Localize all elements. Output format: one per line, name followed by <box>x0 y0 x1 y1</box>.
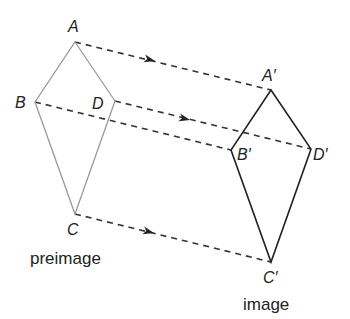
arrowhead-d-icon <box>178 113 191 123</box>
image-kite <box>231 90 311 262</box>
mapping-line-d <box>115 101 311 149</box>
vertex-label-b-prime: B′ <box>237 146 252 163</box>
vertex-label-a-prime: A′ <box>261 67 277 84</box>
mapping-line-a <box>75 42 271 90</box>
preimage-kite <box>35 42 115 214</box>
mapping-line-c <box>75 214 271 262</box>
vertex-label-d: D <box>92 95 104 112</box>
image-caption: image <box>243 295 289 314</box>
vertex-label-d-prime: D′ <box>313 146 329 163</box>
arrowhead-a-icon <box>143 54 156 64</box>
vertex-label-a: A <box>67 18 79 35</box>
preimage-caption: preimage <box>30 249 101 268</box>
mapping-line-b <box>35 102 231 150</box>
vertex-label-b: B <box>15 94 26 111</box>
translation-diagram: A B D C A′ B′ D′ C′ preimage image <box>0 0 350 319</box>
arrowheads <box>142 54 191 236</box>
vertex-label-c-prime: C′ <box>263 269 279 286</box>
vertex-label-c: C <box>67 221 79 238</box>
